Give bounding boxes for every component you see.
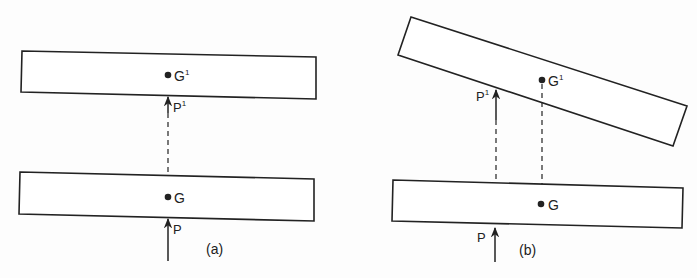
centroid-dot-upper-a (165, 72, 172, 79)
plate-lower-b (392, 180, 683, 228)
centroid-dot-upper-b (539, 77, 546, 84)
figure-b: G1 P1 G P (b) (392, 17, 687, 262)
label-p1-a: P1 (173, 99, 187, 115)
label-p1-b: P1 (476, 88, 490, 104)
label-p-b: P (477, 230, 486, 245)
caption-b: (b) (519, 242, 536, 258)
caption-a: (a) (206, 241, 223, 257)
centroid-dot-lower-b (538, 201, 545, 208)
label-g-b: G (548, 197, 559, 213)
label-p-a: P (173, 222, 182, 237)
figure-a: G1 P1 G P (a) (19, 51, 316, 261)
centroid-dot-lower-a (165, 194, 172, 201)
diagram-canvas: G1 P1 G P (a) G1 P1 G P (b) (0, 0, 697, 278)
label-g-a: G (174, 190, 185, 206)
figure-svg: G1 P1 G P (a) G1 P1 G P (b) (0, 0, 697, 278)
